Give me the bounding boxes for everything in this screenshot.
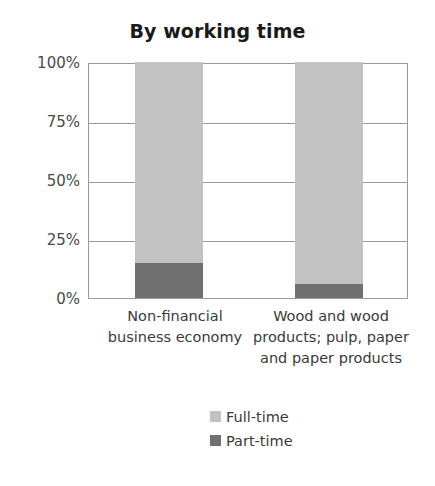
chart-title: By working time [0, 20, 435, 42]
plot-area [88, 63, 408, 299]
y-tick-label-25: 25% [0, 231, 80, 249]
bar-segment-part-time[interactable] [135, 263, 203, 298]
y-tick-label-50: 50% [0, 172, 80, 190]
legend-label-part-time: Part-time [226, 433, 293, 449]
category-label-1: Wood and wood products; pulp, paper and … [236, 306, 426, 369]
legend-item-part-time[interactable]: Part-time [210, 430, 360, 451]
bar-segment-full-time[interactable] [295, 62, 363, 284]
category-label-line: and paper products [236, 348, 426, 369]
chart-legend: Full-time Part-time [210, 406, 360, 454]
legend-swatch-icon [210, 435, 221, 446]
category-label-line: Wood and wood [236, 306, 426, 327]
y-axis: 100% 75% 50% 25% 0% [0, 63, 80, 299]
bar-segment-part-time[interactable] [295, 284, 363, 298]
legend-label-full-time: Full-time [226, 409, 289, 425]
legend-swatch-icon [210, 411, 221, 422]
bar-segment-full-time[interactable] [135, 62, 203, 263]
y-tick-label-75: 75% [0, 113, 80, 131]
bar-column-wood-and-wood-products[interactable] [295, 62, 363, 298]
chart-container: By working time 100% 75% 50% 25% 0% Non-… [0, 0, 435, 486]
y-tick-label-0: 0% [0, 290, 80, 308]
category-label-line: products; pulp, paper [236, 327, 426, 348]
x-axis-category-labels: Non-financial business economy Wood and … [88, 306, 408, 386]
legend-item-full-time[interactable]: Full-time [210, 406, 360, 427]
y-tick-label-100: 100% [0, 54, 80, 72]
bar-column-non-financial-business-economy[interactable] [135, 62, 203, 298]
